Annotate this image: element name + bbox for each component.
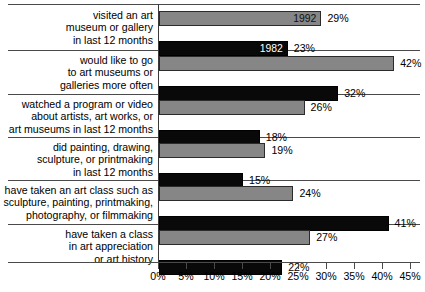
x-axis-tick-label: 25% xyxy=(287,270,308,282)
bar-line: 1992 29% xyxy=(159,11,425,26)
category-label-line: sculpture, or printmaking xyxy=(0,153,153,165)
category-label-line: or art history xyxy=(0,253,153,265)
category-label-line: art museums in last 12 months xyxy=(0,123,153,135)
bar-group: 26% 18% xyxy=(159,97,425,127)
x-axis-tick-label: 15% xyxy=(231,270,252,282)
bar-value-1992: 26% xyxy=(307,100,332,115)
bar-line: 26% xyxy=(159,100,425,115)
x-axis-tick xyxy=(326,262,327,269)
bar-line: 27% xyxy=(159,230,425,245)
category-label-line: did painting, drawing, xyxy=(0,141,153,153)
category-label-line: to art museums or xyxy=(0,66,153,78)
category-label-line: in art appreciation xyxy=(0,240,153,252)
bar-value-1992: 24% xyxy=(295,186,320,201)
bar-1992[interactable] xyxy=(159,230,310,245)
category-label-line: would like to go xyxy=(0,54,153,66)
x-axis-tick xyxy=(382,262,383,269)
x-axis-tick xyxy=(298,262,299,269)
category-label: visited an art museum or gallery in last… xyxy=(0,9,153,46)
category-label-line: have taken a class xyxy=(0,228,153,240)
bar-line: 24% xyxy=(159,186,425,201)
series-label-1992: 1992 xyxy=(159,11,316,26)
bar-1992[interactable] xyxy=(159,100,305,115)
x-axis-tick xyxy=(158,262,159,269)
bar-group: 42% 32% xyxy=(159,53,425,83)
category-label-line: museum or gallery xyxy=(0,21,153,33)
bar-1992[interactable] xyxy=(159,143,265,158)
x-axis-tick xyxy=(214,262,215,269)
x-axis-tick-label: 0% xyxy=(150,270,165,282)
x-axis-tick xyxy=(354,262,355,269)
x-axis-tick-label: 35% xyxy=(343,270,364,282)
category-label: have taken a class in art appreciation o… xyxy=(0,228,153,265)
category-label-line: sculpture, painting, printmaking, xyxy=(0,196,153,208)
category-label-line: about artists, art works, or xyxy=(0,110,153,122)
bar-group: 19% 15% xyxy=(159,140,425,170)
row-separator xyxy=(8,4,420,5)
category-label: watched a program or video about artists… xyxy=(0,98,153,135)
category-label-line: galleries more often xyxy=(0,79,153,91)
bar-group: 24% 41% xyxy=(159,183,425,213)
bar-value-1992: 19% xyxy=(267,143,292,158)
bar-1992[interactable] xyxy=(159,186,293,201)
x-axis-tick xyxy=(186,262,187,269)
x-axis-tick-label: 20% xyxy=(259,270,280,282)
bar-group: 1992 29% 1982 23% xyxy=(159,8,425,38)
category-label-line: in last 12 months xyxy=(0,166,153,178)
x-axis-tick-label: 45% xyxy=(399,270,420,282)
x-axis-tick xyxy=(242,262,243,269)
x-axis-tick-label: 30% xyxy=(315,270,336,282)
chart-container: visited an art museum or gallery in last… xyxy=(0,0,425,292)
bar-line: 42% xyxy=(159,56,425,71)
category-label-line: have taken an art class such as xyxy=(0,184,153,196)
x-axis-tick-label: 10% xyxy=(203,270,224,282)
category-label-line: visited an art xyxy=(0,9,153,21)
category-label: have taken an art class such as sculptur… xyxy=(0,184,153,221)
bar-value-1992: 29% xyxy=(323,11,348,26)
bar-group: 27% 22% xyxy=(159,227,425,257)
category-label-line: photography, or filmmaking xyxy=(0,209,153,221)
category-label-line: watched a program or video xyxy=(0,98,153,110)
x-axis-tick-label: 40% xyxy=(371,270,392,282)
category-label-line: in last 12 months xyxy=(0,34,153,46)
x-axis-tick xyxy=(270,262,271,269)
x-axis-tick xyxy=(410,262,411,269)
bar-value-1992: 42% xyxy=(396,56,421,71)
x-axis-tick-label: 5% xyxy=(178,270,193,282)
category-label: would like to go to art museums or galle… xyxy=(0,54,153,91)
bar-1992[interactable] xyxy=(159,56,394,71)
bar-line: 19% xyxy=(159,143,425,158)
bar-value-1992: 27% xyxy=(312,230,337,245)
category-label: did painting, drawing, sculpture, or pri… xyxy=(0,141,153,178)
